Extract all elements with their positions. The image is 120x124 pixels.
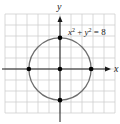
data-point [89,67,94,72]
circle-graph: x y x2 + y2 = 8 [0,0,120,124]
data-point [58,36,63,41]
y-axis-arrow-icon [58,16,63,22]
eq-plus: + [75,27,85,37]
data-point [58,67,63,72]
equation-annotation: x2 + y2 = 8 [67,27,106,37]
x-axis-arrow-icon [105,67,111,72]
y-axis-label: y [56,1,62,12]
x-axis-label: x [113,63,119,74]
data-point [58,98,63,103]
data-point [27,67,32,72]
eq-equals: = 8 [92,27,107,37]
